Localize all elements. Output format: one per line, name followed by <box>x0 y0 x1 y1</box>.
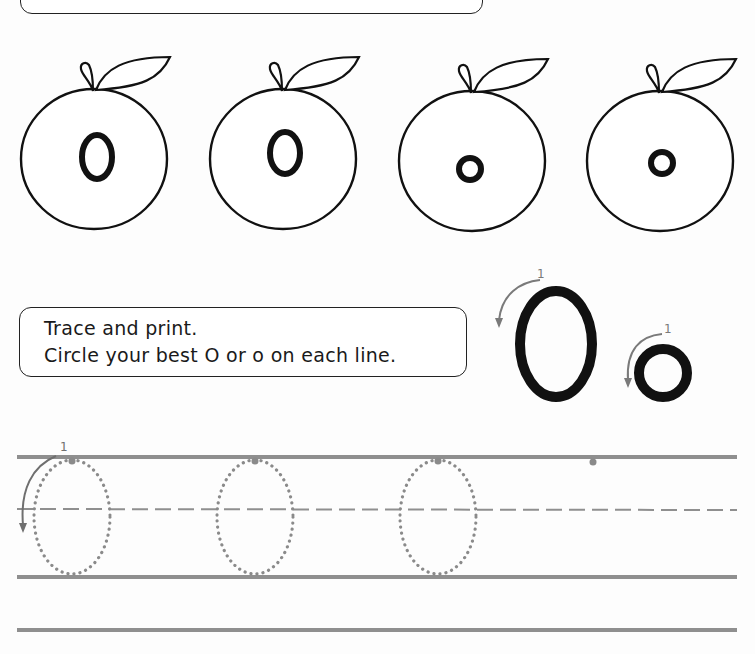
trace-step-arrow <box>19 456 56 533</box>
upper-step-number: 1 <box>537 267 545 281</box>
instruction-line-2: Circle your best O or o on each line. <box>44 344 396 366</box>
instruction-box: Trace and print. Circle your best O or o… <box>19 307 467 377</box>
stroke-guide-lower <box>624 334 687 397</box>
instruction-line-1: Trace and print. <box>44 317 198 339</box>
apple-2 <box>210 57 359 229</box>
dotted-trace-letters <box>34 460 476 574</box>
mid-dashed-line <box>17 509 737 510</box>
trace-o-3 <box>400 460 476 574</box>
trace-step-number: 1 <box>60 440 68 454</box>
apple-4 <box>587 59 736 231</box>
trace-o-2 <box>217 460 293 574</box>
apple-3 <box>399 59 548 231</box>
lower-step-number: 1 <box>664 322 672 336</box>
handwriting-lines <box>17 457 737 630</box>
apple-1 <box>21 57 170 229</box>
stroke-guide-upper <box>495 280 592 397</box>
trace-o-1 <box>34 460 110 574</box>
